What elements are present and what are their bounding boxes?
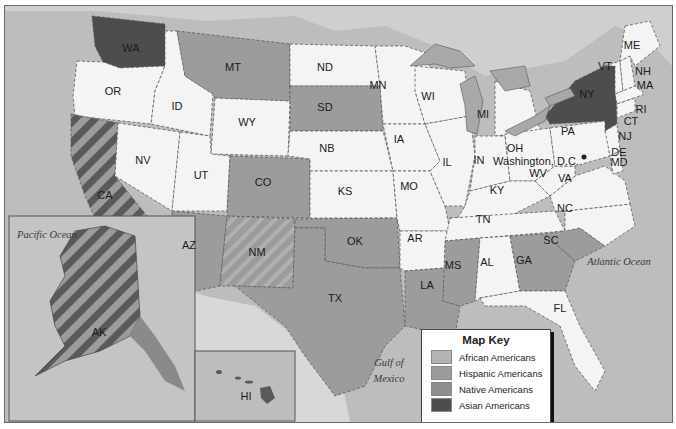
label-ok: OK: [347, 235, 364, 247]
legend-swatch: [431, 398, 452, 412]
label-va: VA: [558, 172, 573, 184]
label-sc: SC: [543, 234, 558, 246]
label-ma: MA: [637, 79, 654, 91]
label-wi: WI: [421, 90, 434, 102]
legend-label: Asian Americans: [459, 400, 530, 411]
label-ks: KS: [338, 185, 353, 197]
legend-label: Hispanic Americans: [459, 368, 542, 379]
label-mexico: Mexico: [373, 373, 405, 384]
label-gulf-of: Gulf of: [374, 357, 406, 368]
label-id: ID: [172, 100, 183, 112]
state-sd[interactable]: [290, 86, 383, 131]
label-in: IN: [474, 154, 485, 166]
label-sd: SD: [317, 101, 332, 113]
label-wa: WA: [122, 42, 140, 54]
label-nd: ND: [317, 61, 333, 73]
label-ar: AR: [407, 232, 422, 244]
legend-item-native-americans: Native Americans: [422, 381, 550, 397]
label-ak: AK: [92, 326, 107, 338]
legend-title: Map Key: [422, 334, 550, 346]
label-la: LA: [420, 279, 434, 291]
legend-label: Native Americans: [459, 384, 533, 395]
legend-swatch: [431, 350, 452, 364]
label-atlantic-ocean: Atlantic Ocean: [586, 256, 650, 267]
hawaii-inset[interactable]: [195, 351, 295, 421]
label-pa: PA: [561, 125, 576, 137]
label-mo: MO: [400, 180, 418, 192]
alaska-inset[interactable]: [9, 216, 195, 421]
label-me: ME: [624, 39, 641, 51]
label-ga: GA: [516, 254, 533, 266]
label-ri: RI: [636, 103, 647, 115]
label-oh: OH: [507, 142, 524, 154]
label-pacific-ocean: Pacific Ocean: [16, 229, 77, 240]
label-ct: CT: [624, 115, 639, 127]
label-md: MD: [610, 156, 627, 168]
map-frame: WA OR CA ID NV MT WY UT CO AZ NM ND SD N…: [4, 5, 673, 423]
label-tx: TX: [328, 292, 343, 304]
map-key-legend: Map Key African Americans Hispanic Ameri…: [421, 329, 551, 423]
label-ms: MS: [445, 259, 462, 271]
label-il: IL: [442, 156, 451, 168]
label-hi: HI: [241, 390, 252, 402]
label-mi: MI: [477, 108, 489, 120]
label-nv: NV: [135, 154, 151, 166]
legend-swatch: [431, 382, 452, 396]
label-nj: NJ: [618, 130, 631, 142]
label-mt: MT: [225, 61, 241, 73]
label-mn: MN: [369, 79, 386, 91]
label-ny: NY: [579, 88, 595, 100]
state-nd[interactable]: [290, 44, 380, 86]
legend-swatch: [431, 366, 452, 380]
label-az: AZ: [182, 239, 196, 251]
label-ky: KY: [490, 184, 505, 196]
label-fl: FL: [554, 302, 567, 314]
legend-item-hispanic-americans: Hispanic Americans: [422, 365, 550, 381]
state-ms[interactable]: [443, 238, 480, 306]
label-tn: TN: [476, 213, 491, 225]
us-map: WA OR CA ID NV MT WY UT CO AZ NM ND SD N…: [5, 6, 672, 422]
label-vt: VT: [598, 60, 612, 72]
legend-label: African Americans: [459, 352, 536, 363]
label-nm: NM: [248, 246, 265, 258]
label-ia: IA: [394, 133, 405, 145]
dc-marker: [582, 155, 587, 160]
state-ks[interactable]: [310, 171, 397, 218]
label-ut: UT: [194, 169, 209, 181]
label-nh: NH: [635, 65, 651, 77]
label-or: OR: [105, 85, 122, 97]
label-wv: WV: [529, 167, 547, 179]
label-ca: CA: [97, 189, 113, 201]
label-nb: NB: [319, 142, 334, 154]
label-co: CO: [255, 176, 272, 188]
legend-item-african-americans: African Americans: [422, 349, 550, 365]
label-washington-dc: Washington, D.C.: [493, 155, 579, 167]
label-al: AL: [480, 256, 493, 268]
label-wy: WY: [238, 116, 256, 128]
label-nc: NC: [557, 202, 573, 214]
legend-item-asian-americans: Asian Americans: [422, 397, 550, 413]
